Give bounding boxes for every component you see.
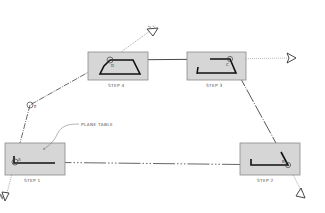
step2-label: STEP 2 [257, 178, 274, 183]
step1-label: STEP 1 [24, 178, 41, 183]
station-c-label: C [226, 62, 229, 67]
eye-icon-right [287, 53, 296, 63]
eye-icon-lower-right [296, 188, 305, 198]
plane-table-step3: STEP 3 [187, 52, 246, 88]
plane-table-label: PLANE TABLE [81, 122, 113, 127]
plane-table-step4: STEP 4 [88, 52, 148, 88]
plane-table-traverse-diagram: STEP 1 STEP 2 STEP 3 STEP 4 A B C D E [0, 0, 325, 213]
eye-icon-upper [147, 26, 158, 37]
step3-label: STEP 3 [206, 83, 223, 88]
annotation-dot [43, 148, 44, 149]
plane-table-step2: STEP 2 [240, 143, 300, 183]
station-a-label: A [18, 157, 21, 162]
station-d-label: D [111, 63, 114, 68]
station-b-label: B [282, 159, 285, 164]
station-e-label: E [34, 104, 37, 109]
eye-icon-lower-left [0, 192, 9, 201]
step4-label: STEP 4 [108, 83, 125, 88]
